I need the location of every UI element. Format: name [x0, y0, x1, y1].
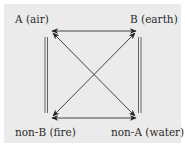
node-label-top-left: A (air) — [15, 13, 49, 25]
node-label-bottom-right: non-A (water) — [111, 126, 184, 138]
node-label-top-right: B (earth) — [130, 13, 178, 25]
double-line-left — [45, 37, 48, 113]
node-label-bottom-left: non-B (fire) — [15, 126, 76, 138]
double-line-right — [139, 37, 142, 113]
